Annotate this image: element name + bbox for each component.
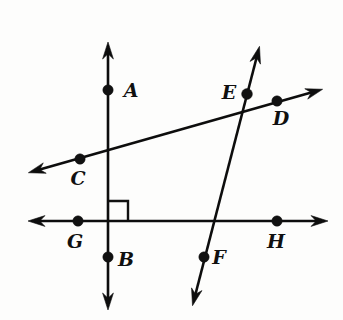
point-a [103,85,113,95]
point-label-h: H [266,230,286,252]
point-label-f: F [211,246,227,268]
point-label-d: D [272,107,290,129]
geometry-diagram: ABCDEFGH [0,0,343,320]
point-label-a: A [122,79,139,101]
points-group [73,85,282,262]
point-g [73,216,83,226]
point-d [272,96,282,106]
geometry-figure-canvas: ABCDEFGH [0,0,343,320]
point-e [242,89,253,100]
point-label-b: B [117,248,134,270]
point-h [272,216,282,226]
point-label-e: E [221,81,237,103]
point-b [103,252,113,262]
point-label-c: C [70,167,85,189]
point-label-g: G [67,230,83,252]
right-angle-icon [109,201,128,220]
point-f [199,252,209,262]
point-c [75,154,85,164]
